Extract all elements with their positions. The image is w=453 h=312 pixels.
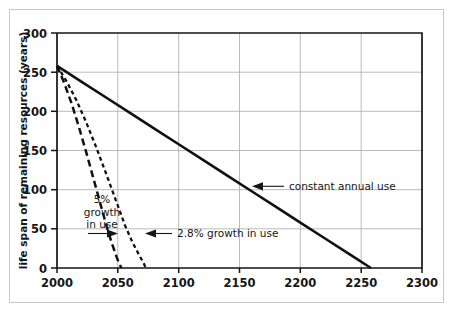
series-5-percent-growth: [57, 66, 121, 268]
arrow-left-icon-2-8: [145, 229, 156, 237]
xtick-label-2150: 2150: [223, 276, 255, 290]
series-2-8-percent-growth: [57, 66, 146, 268]
arrow-left-icon-constant: [252, 182, 263, 190]
annotation-label-constant-annual-use: constant annual use: [289, 180, 396, 192]
ytick-label-50: 50: [31, 222, 47, 236]
xtick-label-2050: 2050: [102, 276, 134, 290]
y-axis-title: life span of remaining resources (years): [17, 32, 29, 269]
annotation-label-5-growth-line2: growth: [84, 206, 121, 218]
arrow-right-icon-5: [107, 229, 118, 237]
xtick-label-2000: 2000: [41, 276, 73, 290]
xtick-label-2250: 2250: [345, 276, 377, 290]
annotation-label-5-growth-line1: 5%: [94, 193, 111, 205]
chart-figure: 300 250 200 150 100 50 0 2000 2050 2100 …: [0, 0, 453, 312]
x-tick-labels: 2000 2050 2100 2150 2200 2250 2300: [41, 276, 438, 290]
annotation-label-5-growth-line3: in use: [86, 218, 118, 230]
annotation-constant-annual-use: constant annual use: [252, 180, 396, 192]
ytick-label-0: 0: [39, 262, 47, 276]
chart-canvas: 300 250 200 150 100 50 0 2000 2050 2100 …: [0, 0, 453, 312]
xtick-label-2100: 2100: [163, 276, 195, 290]
annotation-label-2-8-growth: 2.8% growth in use: [177, 227, 278, 239]
xtick-label-2300: 2300: [406, 276, 438, 290]
xtick-label-2200: 2200: [284, 276, 316, 290]
y-axis-ticks: [51, 33, 57, 268]
